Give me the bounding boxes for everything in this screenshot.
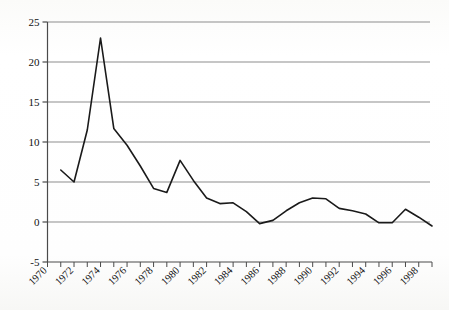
x-tick-label: 1998 [398,265,421,288]
x-tick-label: 1988 [265,265,288,288]
x-tick-label-group: 1970197219741976197819801982198419861988… [26,264,420,287]
x-tick-label: 1994 [344,264,367,287]
x-tick-label: 1978 [132,265,155,288]
data-line-1 [61,38,432,226]
x-tick-label: 1970 [26,265,49,288]
y-tick-label: 5 [34,176,40,188]
x-tick-label: 1982 [185,265,208,288]
line-chart: -50510152025 197019721974197619781980198… [0,0,449,310]
x-tick-label: 1992 [318,265,341,288]
y-tick-label: 20 [29,56,41,68]
x-tick-label: 1980 [159,265,182,288]
x-tick-label: 1984 [212,264,235,287]
y-tick-label: 10 [29,136,41,148]
chart-page: -50510152025 197019721974197619781980198… [0,0,449,310]
x-tick-label: 1990 [291,265,314,288]
y-tick-label: 15 [29,96,41,108]
x-tick-label: 1974 [79,264,102,287]
x-tick-label: 1986 [238,265,261,288]
data-series-group [61,38,432,226]
gridlines-group [48,22,431,222]
x-tick-label: 1972 [53,265,76,288]
y-tick-label: 25 [29,16,41,28]
y-tick-label: 0 [34,216,40,228]
x-tick-group [48,262,433,267]
x-tick-label: 1976 [106,265,129,288]
y-tick-group: -50510152025 [29,16,48,268]
x-tick-label: 1996 [371,265,394,288]
